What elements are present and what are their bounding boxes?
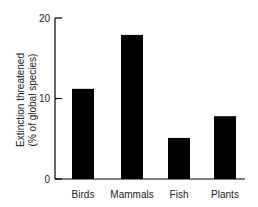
y-axis-title-line-2: (% of global species) bbox=[27, 54, 38, 147]
x-category-label: Mammals bbox=[110, 189, 153, 200]
y-tick-label: 0 bbox=[44, 174, 50, 185]
x-category-label: Plants bbox=[211, 189, 239, 200]
x-category-label: Fish bbox=[170, 189, 189, 200]
bar-mammals bbox=[121, 35, 143, 179]
y-axis-title: Extinction threatened (% of global speci… bbox=[15, 53, 38, 147]
x-axis-labels: BirdsMammalsFishPlants bbox=[72, 189, 239, 200]
y-tick-label: 20 bbox=[39, 13, 51, 24]
bars bbox=[72, 35, 236, 179]
x-category-label: Birds bbox=[72, 189, 95, 200]
bar-chart: Extinction threatened (% of global speci… bbox=[0, 0, 258, 207]
y-axis-title-line-1: Extinction threatened bbox=[15, 53, 26, 147]
bar-birds bbox=[72, 89, 94, 179]
y-axis-ticks: 01020 bbox=[39, 13, 62, 185]
bar-fish bbox=[168, 138, 190, 179]
bar-plants bbox=[214, 116, 236, 179]
y-tick-label: 10 bbox=[39, 93, 51, 104]
